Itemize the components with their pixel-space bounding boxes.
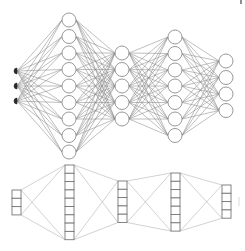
unit-cell [171, 181, 180, 189]
block-edge [74, 165, 118, 181]
unit-cell [65, 165, 74, 173]
unit-cell [171, 173, 180, 181]
block-edge [21, 165, 65, 190]
unit-cell [118, 181, 127, 189]
block-edge [127, 173, 171, 181]
unit-cell [118, 198, 127, 206]
unit-cell [65, 190, 74, 198]
block-edge [180, 173, 222, 185]
unit-cell [222, 193, 231, 201]
unit-cell [12, 190, 21, 198]
unit-cell [65, 207, 74, 215]
block-edge [127, 173, 171, 223]
hidden-2-block [118, 181, 127, 223]
unit-cell [12, 207, 21, 215]
unit-cell [65, 173, 74, 181]
unit-cell [65, 198, 74, 206]
block-edge [180, 173, 222, 218]
block-edge [21, 215, 65, 240]
unit-cell [222, 202, 231, 210]
block-edge [180, 218, 222, 231]
figure [0, 0, 245, 251]
input-block [12, 190, 21, 215]
unit-cell [65, 182, 74, 190]
unit-cell [65, 223, 74, 231]
hidden-3-block [171, 173, 180, 231]
unit-cell [171, 190, 180, 198]
unit-cell [12, 198, 21, 206]
block-edge [21, 165, 65, 215]
unit-cell [118, 214, 127, 222]
unit-cell [222, 185, 231, 193]
block-diagram [0, 0, 245, 251]
block-edge [180, 185, 222, 231]
output-block [222, 185, 231, 218]
unit-cell [171, 215, 180, 223]
unit-cell [65, 215, 74, 223]
unit-cell [65, 231, 74, 239]
unit-cell [171, 223, 180, 231]
block-edge [21, 190, 65, 240]
unit-cell [171, 206, 180, 214]
unit-cell [118, 189, 127, 197]
block-edge [74, 165, 118, 223]
unit-cell [171, 198, 180, 206]
hidden-1-block [65, 165, 74, 240]
unit-cell [118, 206, 127, 214]
unit-cell [222, 210, 231, 218]
